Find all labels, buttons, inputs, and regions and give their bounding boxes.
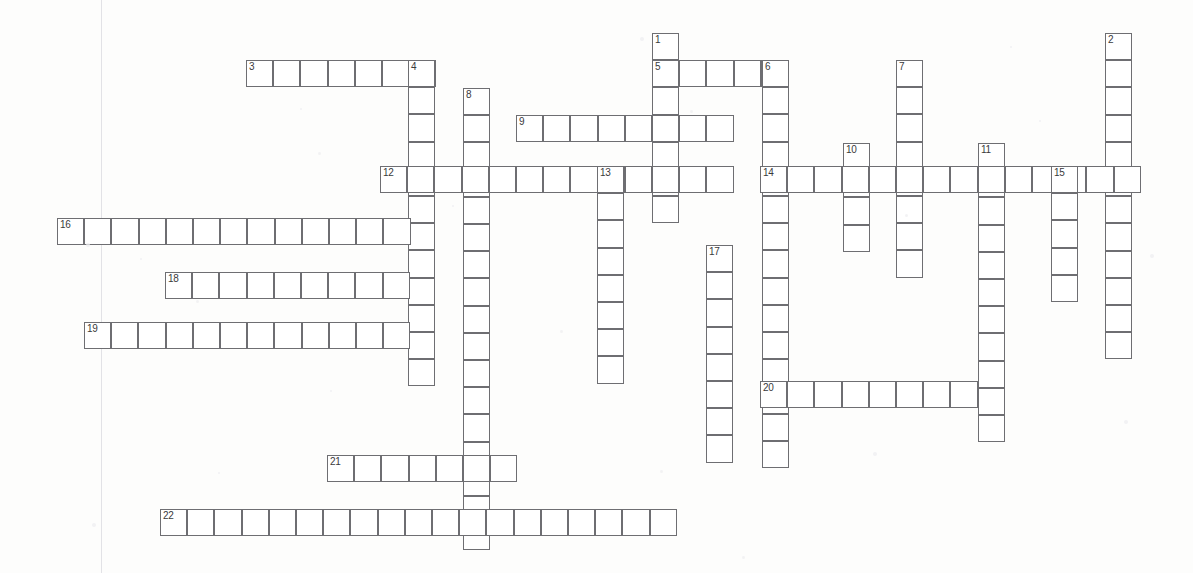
crossword-cell-17-down-4[interactable] bbox=[706, 354, 733, 381]
crossword-cell-22-across-5[interactable] bbox=[296, 509, 323, 536]
crossword-cell-9-across-3[interactable] bbox=[598, 115, 625, 142]
crossword-cell-6-down-10[interactable] bbox=[762, 332, 789, 359]
crossword-cell-7-down-1[interactable] bbox=[896, 87, 923, 114]
crossword-cell-9-across-1[interactable] bbox=[543, 115, 570, 142]
crossword-cell-22-across-8[interactable] bbox=[378, 509, 405, 536]
crossword-cell-8-down-10[interactable] bbox=[463, 360, 490, 387]
crossword-cell-12-across-5[interactable] bbox=[516, 166, 543, 193]
crossword-cell-8-down-7[interactable] bbox=[463, 278, 490, 305]
crossword-cell-19-across-1[interactable] bbox=[111, 322, 138, 349]
crossword-cell-4-down-5[interactable] bbox=[408, 196, 435, 223]
crossword-cell-22-across-10[interactable] bbox=[432, 509, 459, 536]
crossword-cell-5-across-3[interactable] bbox=[734, 60, 761, 87]
crossword-cell-9-across-6[interactable] bbox=[679, 115, 706, 142]
crossword-cell-2-down-11[interactable] bbox=[1105, 332, 1132, 359]
crossword-cell-13-down-4[interactable] bbox=[597, 275, 624, 302]
crossword-cell-19-across-7[interactable] bbox=[274, 322, 301, 349]
crossword-cell-1-down-4[interactable] bbox=[652, 142, 679, 169]
crossword-cell-12-across-11[interactable] bbox=[679, 166, 706, 193]
crossword-cell-4-down-6[interactable] bbox=[408, 223, 435, 250]
crossword-cell-10-down-3[interactable] bbox=[843, 225, 870, 252]
crossword-cell-16-across-10[interactable] bbox=[329, 218, 356, 245]
crossword-cell-19-across-9[interactable] bbox=[329, 322, 356, 349]
crossword-cell-16-across-9[interactable] bbox=[302, 218, 329, 245]
crossword-cell-21-across-6[interactable] bbox=[490, 455, 517, 482]
crossword-cell-19-across-5[interactable] bbox=[220, 322, 247, 349]
crossword-cell-1-down-2[interactable] bbox=[652, 87, 679, 114]
crossword-cell-9-across-2[interactable] bbox=[570, 115, 597, 142]
crossword-cell-4-down-8[interactable] bbox=[408, 278, 435, 305]
crossword-cell-11-down-7[interactable] bbox=[978, 333, 1005, 360]
crossword-cell-18-across-6[interactable] bbox=[328, 272, 355, 299]
crossword-cell-19-across-3[interactable] bbox=[166, 322, 193, 349]
crossword-cell-14-across-3[interactable] bbox=[842, 166, 869, 193]
crossword-cell-4-down-11[interactable] bbox=[408, 359, 435, 386]
crossword-cell-20-across-2[interactable] bbox=[814, 381, 841, 408]
crossword-cell-16-across-7[interactable] bbox=[247, 218, 274, 245]
crossword-cell-11-down-2[interactable] bbox=[978, 197, 1005, 224]
crossword-cell-16-across-0[interactable]: 16 bbox=[57, 218, 84, 245]
crossword-cell-18-across-4[interactable] bbox=[274, 272, 301, 299]
crossword-cell-14-across-13[interactable] bbox=[1114, 166, 1141, 193]
crossword-cell-11-down-6[interactable] bbox=[978, 306, 1005, 333]
crossword-cell-7-down-6[interactable] bbox=[896, 223, 923, 250]
crossword-cell-8-down-6[interactable] bbox=[463, 251, 490, 278]
crossword-cell-17-down-1[interactable] bbox=[706, 272, 733, 299]
crossword-cell-2-down-9[interactable] bbox=[1105, 278, 1132, 305]
crossword-cell-12-across-7[interactable] bbox=[570, 166, 597, 193]
crossword-cell-2-down-1[interactable] bbox=[1105, 60, 1132, 87]
crossword-cell-6-down-3[interactable] bbox=[762, 142, 789, 169]
crossword-cell-18-across-7[interactable] bbox=[355, 272, 382, 299]
crossword-cell-16-across-2[interactable] bbox=[111, 218, 138, 245]
crossword-cell-8-down-1[interactable] bbox=[463, 115, 490, 142]
crossword-cell-7-down-3[interactable] bbox=[896, 142, 923, 169]
crossword-cell-4-down-7[interactable] bbox=[408, 250, 435, 277]
crossword-cell-16-across-5[interactable] bbox=[193, 218, 220, 245]
crossword-cell-16-across-6[interactable] bbox=[220, 218, 247, 245]
crossword-cell-8-down-12[interactable] bbox=[463, 414, 490, 441]
crossword-cell-9-across-7[interactable] bbox=[706, 115, 733, 142]
crossword-cell-16-across-11[interactable] bbox=[356, 218, 383, 245]
crossword-cell-2-down-4[interactable] bbox=[1105, 142, 1132, 169]
crossword-cell-12-across-4[interactable] bbox=[489, 166, 516, 193]
crossword-cell-17-down-3[interactable] bbox=[706, 327, 733, 354]
crossword-cell-20-across-5[interactable] bbox=[896, 381, 923, 408]
crossword-cell-7-down-0[interactable]: 7 bbox=[896, 60, 923, 87]
crossword-cell-18-across-5[interactable] bbox=[301, 272, 328, 299]
crossword-cell-12-across-9[interactable] bbox=[625, 166, 652, 193]
crossword-cell-19-across-10[interactable] bbox=[356, 322, 383, 349]
crossword-cell-15-down-4[interactable] bbox=[1051, 275, 1078, 302]
crossword-cell-1-down-0[interactable]: 1 bbox=[652, 33, 679, 60]
crossword-cell-19-across-11[interactable] bbox=[383, 322, 410, 349]
crossword-cell-4-down-10[interactable] bbox=[408, 332, 435, 359]
crossword-cell-17-down-5[interactable] bbox=[706, 381, 733, 408]
crossword-cell-6-down-7[interactable] bbox=[762, 250, 789, 277]
crossword-cell-12-across-12[interactable] bbox=[706, 166, 733, 193]
crossword-cell-11-down-9[interactable] bbox=[978, 388, 1005, 415]
crossword-cell-22-across-13[interactable] bbox=[514, 509, 541, 536]
crossword-cell-8-down-9[interactable] bbox=[463, 333, 490, 360]
crossword-cell-22-across-1[interactable] bbox=[187, 509, 214, 536]
crossword-cell-12-across-10[interactable] bbox=[652, 166, 679, 193]
crossword-cell-19-across-4[interactable] bbox=[193, 322, 220, 349]
crossword-cell-4-down-3[interactable] bbox=[408, 142, 435, 169]
crossword-cell-12-across-3[interactable] bbox=[462, 166, 489, 193]
crossword-cell-19-across-0[interactable]: 19 bbox=[84, 322, 111, 349]
crossword-cell-6-down-13[interactable] bbox=[762, 414, 789, 441]
crossword-cell-11-down-5[interactable] bbox=[978, 279, 1005, 306]
crossword-cell-19-across-6[interactable] bbox=[247, 322, 274, 349]
crossword-cell-22-across-18[interactable] bbox=[650, 509, 677, 536]
crossword-cell-20-across-0[interactable]: 20 bbox=[760, 381, 787, 408]
crossword-cell-20-across-6[interactable] bbox=[923, 381, 950, 408]
crossword-cell-14-across-8[interactable] bbox=[978, 166, 1005, 193]
crossword-cell-21-across-2[interactable] bbox=[381, 455, 408, 482]
crossword-cell-8-down-11[interactable] bbox=[463, 387, 490, 414]
crossword-cell-22-across-6[interactable] bbox=[323, 509, 350, 536]
crossword-cell-17-down-0[interactable]: 17 bbox=[706, 245, 733, 272]
crossword-cell-22-across-9[interactable] bbox=[405, 509, 432, 536]
crossword-cell-3-across-1[interactable] bbox=[273, 60, 300, 87]
crossword-cell-21-across-0[interactable]: 21 bbox=[327, 455, 354, 482]
crossword-cell-2-down-3[interactable] bbox=[1105, 115, 1132, 142]
crossword-cell-18-across-1[interactable] bbox=[192, 272, 219, 299]
crossword-cell-22-across-14[interactable] bbox=[541, 509, 568, 536]
